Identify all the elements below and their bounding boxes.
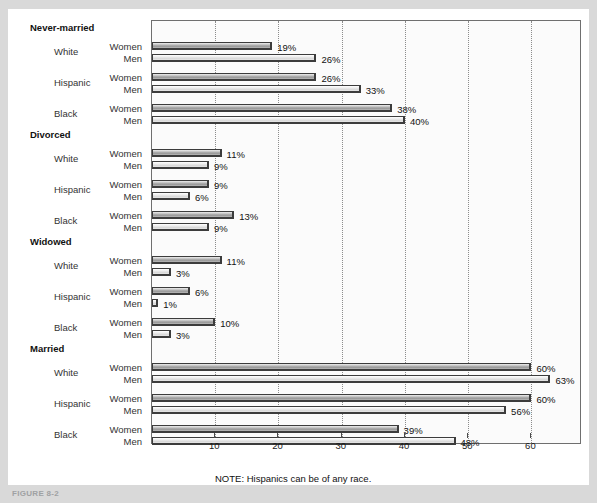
bar-value-label: 10%	[220, 319, 239, 328]
bar-men	[152, 268, 171, 276]
x-axis-tick-label: 60	[525, 440, 536, 451]
sex-label-women: Women	[80, 41, 142, 52]
bar-value-label: 9%	[214, 224, 228, 233]
bar-women	[152, 73, 316, 81]
race-label: Black	[54, 429, 77, 440]
bar-women	[152, 318, 215, 326]
bar-men	[152, 161, 209, 169]
bar-men	[152, 223, 209, 231]
bar-men	[152, 406, 506, 414]
bar-women	[152, 149, 222, 157]
bar-women	[152, 104, 392, 112]
x-axis-tick	[341, 433, 342, 438]
sex-label-women: Women	[80, 148, 142, 159]
bar-value-label: 60%	[536, 395, 555, 404]
bar-women	[152, 42, 272, 50]
race-label: Hispanic	[54, 398, 90, 409]
marital-status-group-label: Married	[30, 343, 64, 354]
race-label: White	[54, 46, 78, 57]
x-axis-tick	[277, 433, 278, 438]
bar-value-label: 38%	[397, 105, 416, 114]
bar-value-label: 33%	[366, 86, 385, 95]
bar-women	[152, 180, 209, 188]
x-axis-tick-label: 40	[399, 440, 410, 451]
bar-men	[152, 116, 405, 124]
sex-label-men: Men	[80, 222, 142, 233]
x-axis-tick	[530, 433, 531, 438]
race-label: White	[54, 260, 78, 271]
bar-men	[152, 192, 190, 200]
x-axis-tick-label: 10	[209, 440, 220, 451]
bar-men	[152, 85, 361, 93]
sex-label-women: Women	[80, 362, 142, 373]
figure-sheet: Never-marriedWomenMenWhiteWomenMenHispan…	[8, 9, 589, 485]
bar-value-label: 9%	[214, 181, 228, 190]
marital-status-group-label: Widowed	[30, 236, 72, 247]
bar-men	[152, 375, 550, 383]
bar-women	[152, 287, 190, 295]
race-label: Hispanic	[54, 77, 90, 88]
race-label: Black	[54, 215, 77, 226]
x-axis-tick-label: 50	[462, 440, 473, 451]
race-label: Black	[54, 322, 77, 333]
bar-value-label: 60%	[536, 364, 555, 373]
bar-value-label: 3%	[176, 331, 190, 340]
bar-value-label: 19%	[277, 43, 296, 52]
page-bottom-band	[0, 487, 597, 503]
bar-value-label: 13%	[239, 212, 258, 221]
bar-value-label: 11%	[227, 150, 245, 159]
race-label: White	[54, 367, 78, 378]
bar-value-label: 39%	[404, 426, 423, 435]
bar-women	[152, 425, 399, 433]
bar-value-label: 56%	[511, 407, 530, 416]
x-axis-tick-label: 30	[335, 440, 346, 451]
sex-label-men: Men	[80, 53, 142, 64]
bar-value-label: 3%	[176, 269, 190, 278]
sex-label-men: Men	[80, 329, 142, 340]
bar-women	[152, 363, 531, 371]
sex-label-men: Men	[80, 267, 142, 278]
bar-value-label: 11%	[227, 257, 245, 266]
sex-label-women: Women	[80, 210, 142, 221]
bar-women	[152, 256, 222, 264]
bar-men	[152, 437, 456, 445]
race-label: Black	[54, 108, 77, 119]
race-label: Hispanic	[54, 291, 90, 302]
bar-women	[152, 394, 531, 402]
bar-value-label: 63%	[555, 376, 574, 385]
chart-plot-area: 19%26%26%33%38%40%11%9%9%6%13%9%11%3%6%1…	[151, 20, 581, 444]
bar-women	[152, 211, 234, 219]
bar-value-label: 1%	[163, 300, 177, 309]
bar-value-label: 6%	[195, 288, 209, 297]
chart-note: NOTE: Hispanics can be of any race.	[215, 473, 371, 484]
sex-label-men: Men	[80, 436, 142, 447]
bar-men	[152, 54, 316, 62]
bar-value-label: 26%	[321, 55, 340, 64]
x-axis-tick	[467, 433, 468, 438]
x-axis-tick	[214, 433, 215, 438]
x-axis-tick-label: 20	[272, 440, 283, 451]
sex-label-women: Women	[80, 255, 142, 266]
bar-value-label: 6%	[195, 193, 209, 202]
x-axis-tick	[404, 433, 405, 438]
sex-label-women: Women	[80, 317, 142, 328]
figure-caption: FIGURE 8-2	[12, 489, 59, 498]
bar-men	[152, 330, 171, 338]
race-label: White	[54, 153, 78, 164]
sex-label-men: Men	[80, 160, 142, 171]
bar-men	[152, 299, 158, 307]
bar-value-label: 9%	[214, 162, 228, 171]
race-label: Hispanic	[54, 184, 90, 195]
bar-value-label: 26%	[321, 74, 340, 83]
sex-label-women: Women	[80, 103, 142, 114]
bar-value-label: 40%	[410, 117, 429, 126]
sex-label-men: Men	[80, 374, 142, 385]
sex-label-men: Men	[80, 115, 142, 126]
figure-page: Never-marriedWomenMenWhiteWomenMenHispan…	[0, 0, 597, 503]
marital-status-group-label: Never-married	[30, 22, 94, 33]
sex-label-women: Women	[80, 424, 142, 435]
marital-status-group-label: Divorced	[30, 129, 71, 140]
